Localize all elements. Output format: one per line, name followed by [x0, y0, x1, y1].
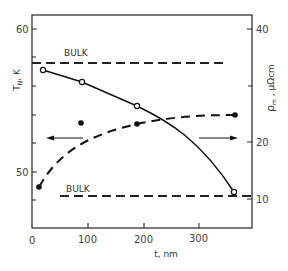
tn-point	[79, 79, 84, 84]
x-tick-200: 200	[134, 234, 153, 245]
x-tick-300: 300	[189, 233, 208, 244]
arrow-left-icon	[46, 136, 83, 141]
y-left-unit: , K	[12, 68, 22, 81]
x-axis-label: t, nm	[154, 249, 178, 259]
x-tick-100: 100	[78, 234, 97, 245]
bulk-label-upper: BULK	[64, 48, 89, 58]
x-axis-ticks	[88, 223, 199, 228]
tn-point	[134, 103, 139, 108]
x-tick-0: 0	[29, 235, 35, 246]
arrow-right-icon	[199, 136, 238, 141]
left-axis-ticks	[32, 29, 37, 200]
rho-points	[36, 112, 238, 190]
right-axis-ticks	[247, 29, 252, 199]
y-right-tick-40: 40	[256, 24, 269, 35]
rho-point	[78, 120, 84, 126]
chart: 60 50 40 20 10 0 100 200 300 t, nm TN, K…	[0, 0, 288, 271]
y-right-axis-label: ρm , μΩcm	[264, 64, 277, 112]
svg-text:TN, K: TN, K	[12, 68, 23, 92]
bulk-label-lower: BULK	[66, 184, 91, 194]
tn-point	[231, 189, 236, 194]
rho-point	[134, 121, 140, 127]
y-right-tick-10: 10	[256, 194, 269, 205]
y-left-tick-50: 50	[16, 167, 29, 178]
tn-point	[40, 67, 45, 72]
rho-point	[36, 184, 42, 190]
svg-text:ρm , μΩcm: ρm , μΩcm	[264, 64, 277, 112]
y-right-unit: , μΩcm	[266, 64, 276, 99]
y-right-symbol: ρ	[264, 105, 277, 112]
rho-point	[232, 112, 238, 118]
y-right-tick-20: 20	[256, 137, 269, 148]
tn-curve	[43, 70, 234, 192]
y-left-tick-60: 60	[16, 24, 29, 35]
y-left-axis-label: TN, K	[12, 68, 23, 92]
tn-points	[40, 67, 236, 194]
